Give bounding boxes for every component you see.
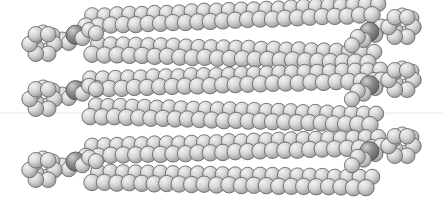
cluster-right-3 [381,127,421,164]
molecule-scene [0,0,443,208]
atom-sphere-linker [88,26,103,41]
layer-2-band-b [82,98,384,133]
cluster-atom-front [40,153,56,169]
layer-3-band-a [78,129,386,164]
atom-sphere-linker [88,82,103,97]
cluster-atom-front [40,27,56,43]
atom-sphere-linker [88,154,103,169]
cluster-right-1 [381,8,421,45]
atom-sphere-front [358,179,374,195]
cluster-left-2 [22,80,62,117]
cluster-atom-front [40,82,56,98]
cluster-left-1 [22,25,62,62]
atom-sphere-linker [344,38,359,53]
layer-3-band-b [84,164,380,196]
cluster-atom-front [399,63,415,79]
cluster-left-3 [22,151,62,188]
cluster-atom-front [399,9,415,25]
atom-sphere-linker [344,92,359,107]
molecule-canvas [0,0,443,208]
layer-1-band-a [78,0,386,34]
molecular-model-figure [0,0,443,208]
layer-2-band-a [76,62,388,97]
cluster-atom-front [399,129,415,145]
atom-sphere-linker [344,158,359,173]
